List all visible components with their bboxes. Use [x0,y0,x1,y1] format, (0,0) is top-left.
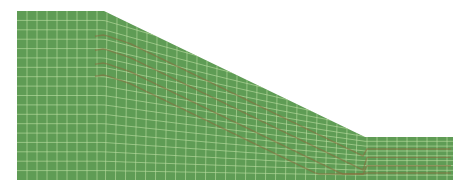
slope-mesh-figure [0,0,472,191]
slope-mesh-svg [0,0,472,191]
